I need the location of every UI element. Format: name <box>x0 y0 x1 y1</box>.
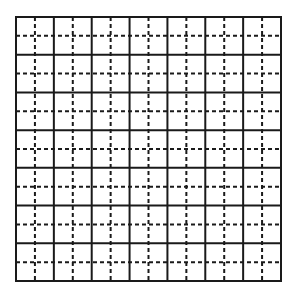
grid-diagram <box>0 0 295 299</box>
minor-dashed-lines <box>16 17 281 281</box>
